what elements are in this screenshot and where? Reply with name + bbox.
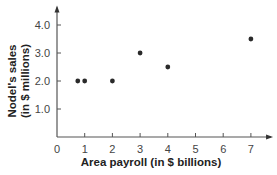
data-points [75,37,253,84]
y-tick-label: 1.0 [35,103,50,115]
data-point [165,65,170,70]
x-tick-label: 1 [82,143,88,155]
y-axis-title-line2: (in $ millions) [19,44,31,118]
x-axis-arrow-icon [266,135,273,140]
y-axis-title: Nodel's sales (in $ millions) [6,44,31,118]
data-point [75,79,80,84]
scatter-chart: 012345671.02.03.04.0 Area payroll (in $ … [0,0,277,175]
data-point [82,79,87,84]
data-point [138,51,143,56]
axes: 012345671.02.03.04.0 [35,5,273,155]
x-tick-label: 0 [54,143,60,155]
x-tick-label: 4 [165,143,171,155]
data-point [249,37,254,42]
x-tick-label: 5 [192,143,198,155]
x-tick-label: 3 [137,143,143,155]
data-point [110,79,115,84]
x-tick-label: 6 [220,143,226,155]
y-axis-arrow-icon [55,5,60,12]
y-axis-title-line1: Nodel's sales [6,44,18,117]
y-tick-label: 2.0 [35,75,50,87]
x-tick-label: 2 [109,143,115,155]
y-tick-label: 3.0 [35,47,50,59]
x-axis-title: Area payroll (in $ billions) [81,156,222,168]
y-tick-label: 4.0 [35,19,50,31]
x-tick-label: 7 [248,143,254,155]
